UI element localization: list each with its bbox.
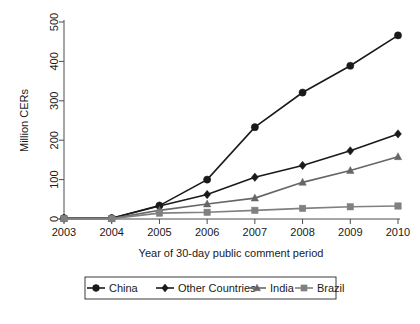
data-point-marker [347, 62, 354, 69]
data-point-marker [299, 89, 306, 96]
chart-legend: ChinaOther CountriesIndiaBrazil [85, 277, 345, 299]
line-chart-svg: 0100200300400500200320042005200620072008… [0, 0, 420, 324]
data-point-marker [395, 203, 401, 209]
data-point-marker [61, 215, 67, 221]
x-tick-label: 2009 [338, 226, 362, 238]
data-point-marker [251, 173, 258, 181]
data-point-marker [204, 209, 210, 215]
data-point-marker [394, 153, 401, 160]
y-tick-label: 100 [48, 170, 60, 188]
data-point-marker [251, 124, 258, 131]
x-tick-label: 2006 [195, 226, 219, 238]
series-china [60, 32, 401, 222]
x-tick-label: 2003 [52, 226, 76, 238]
y-tick-label: 200 [48, 131, 60, 149]
chart-labels: 0100200300400500200320042005200620072008… [18, 13, 410, 259]
x-tick-label: 2005 [147, 226, 171, 238]
x-tick-label: 2004 [99, 226, 123, 238]
x-tick-label: 2008 [290, 226, 314, 238]
legend-label: Brazil [317, 282, 345, 294]
data-point-marker [395, 130, 402, 138]
legend-label: India [270, 282, 295, 294]
chart-series [60, 32, 401, 223]
legend-label: China [109, 282, 139, 294]
data-point-marker [252, 207, 258, 213]
chart-figure: 0100200300400500200320042005200620072008… [0, 0, 420, 324]
legend-label: Other Countries [178, 282, 256, 294]
y-axis-title: Million CERs [18, 89, 30, 152]
y-tick-label: 500 [48, 13, 60, 31]
data-point-marker [109, 215, 115, 221]
chart-axes [58, 20, 400, 224]
x-tick-label: 2010 [386, 226, 410, 238]
data-point-marker [347, 147, 354, 155]
data-point-marker [394, 32, 401, 39]
data-point-marker [204, 176, 211, 183]
x-tick-label: 2007 [243, 226, 267, 238]
data-point-marker [347, 204, 353, 210]
legend-marker-circle-icon [93, 285, 100, 292]
x-axis-title: Year of 30-day public comment period [139, 247, 324, 259]
y-tick-label: 0 [48, 216, 60, 222]
data-point-marker [299, 161, 306, 169]
data-point-marker [204, 190, 211, 198]
legend-marker-square-icon [301, 285, 307, 291]
data-point-marker [156, 210, 162, 216]
y-tick-label: 400 [48, 52, 60, 70]
y-tick-label: 300 [48, 92, 60, 110]
data-point-marker [299, 205, 305, 211]
